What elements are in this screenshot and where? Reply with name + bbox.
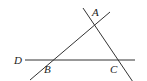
label-d: D <box>13 54 22 66</box>
label-c: C <box>110 63 118 75</box>
label-a: A <box>91 6 99 18</box>
label-b: B <box>44 63 51 75</box>
line-ac-extended <box>83 8 133 81</box>
triangle-diagram: A D B C <box>0 0 147 81</box>
line-ab-extended <box>30 12 110 80</box>
